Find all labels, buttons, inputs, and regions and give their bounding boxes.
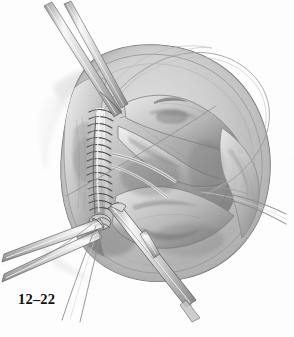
figure-root: 12–22	[0, 0, 294, 337]
figure-caption: 12–22	[18, 291, 55, 308]
surgical-illustration	[0, 0, 294, 337]
